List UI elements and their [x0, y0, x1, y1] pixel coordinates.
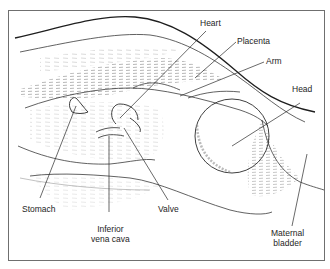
leader-placenta	[195, 42, 236, 78]
label-heart: Heart	[200, 18, 221, 28]
label-inferior-vena-cava: Inferiorvena cava	[91, 224, 130, 244]
body-texture	[30, 102, 164, 162]
label-valve: Valve	[158, 204, 179, 214]
label-placenta: Placenta	[237, 36, 270, 46]
leader-bladder	[292, 154, 307, 226]
label-head: Head	[292, 84, 312, 94]
label-arm: Arm	[266, 56, 282, 66]
head-texture	[197, 125, 230, 172]
arm-outline-2	[188, 91, 240, 98]
label-stomach: Stomach	[22, 204, 56, 214]
label-maternal-bladder: Maternalbladder	[271, 228, 304, 248]
